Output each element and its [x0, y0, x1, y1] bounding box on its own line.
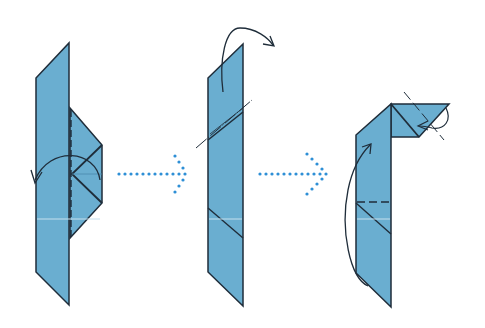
step-1: [31, 43, 102, 305]
step3-top-arm: [391, 104, 449, 137]
step-3: [345, 92, 449, 307]
step-arrow-1: [117, 154, 186, 193]
step-arrow-2: [258, 152, 327, 195]
step3-body: [356, 104, 391, 307]
origami-diagram: [0, 0, 485, 328]
step2-strip: [208, 44, 243, 306]
step-2: [196, 28, 274, 306]
